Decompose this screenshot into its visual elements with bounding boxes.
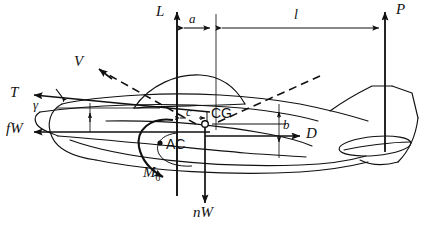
moment-symbol: M (143, 164, 156, 180)
aerodynamic-center-marker (157, 140, 162, 145)
moment-subscript: 0 (156, 172, 161, 183)
dimension-b-label: b (283, 118, 290, 131)
center-of-gravity-label: CG (211, 106, 232, 120)
nw-weight-label: nW (193, 205, 213, 220)
lift-label: L (156, 4, 164, 19)
velocity-arrowhead (99, 69, 112, 79)
aerodynamic-center-label: AC (166, 137, 185, 151)
fw-inertia-label: fW (6, 121, 23, 136)
pitching-moment-label: M0 (143, 165, 160, 183)
velocity-label: V (74, 54, 83, 69)
gamma-angle-marks (56, 89, 90, 122)
dimension-a-label: a (189, 12, 196, 25)
gamma-angle-label: γ (33, 98, 38, 111)
drag-label: D (306, 126, 317, 141)
velocity-line-right (218, 76, 320, 122)
velocity-dashed-lines (100, 70, 320, 124)
dimension-c-label: c (186, 106, 191, 118)
tail-load-label: P (396, 2, 405, 17)
aircraft-force-diagram: L P a l V T γ fW c CG b D AC M0 nW (0, 0, 439, 231)
thrust-label: T (10, 85, 18, 100)
dimension-l-label: l (294, 8, 298, 22)
